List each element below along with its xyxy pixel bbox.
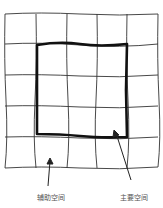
grid-lines: [5, 13, 160, 169]
grid-diagram: [0, 0, 163, 208]
arrow-auxiliary: [47, 158, 53, 186]
main-space-outline: [37, 43, 127, 138]
label-auxiliary-space: 辅助空间: [37, 192, 65, 202]
label-main-space: 主要空间: [120, 192, 148, 202]
